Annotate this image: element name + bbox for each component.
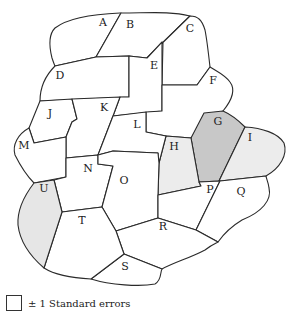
label-g: G bbox=[214, 115, 223, 128]
label-k: K bbox=[100, 101, 109, 114]
label-c: C bbox=[186, 22, 194, 35]
label-a: A bbox=[98, 16, 108, 29]
label-h: H bbox=[169, 140, 179, 153]
label-q: Q bbox=[236, 185, 245, 198]
label-i: I bbox=[248, 131, 252, 144]
label-s: S bbox=[121, 260, 129, 273]
legend: ± 1 Standard errors bbox=[6, 295, 131, 311]
label-f: F bbox=[209, 74, 217, 87]
label-t: T bbox=[78, 214, 86, 227]
label-p: P bbox=[206, 183, 214, 196]
label-e: E bbox=[150, 59, 158, 72]
legend-label: ± 1 Standard errors bbox=[28, 298, 131, 309]
label-m: M bbox=[18, 139, 29, 152]
label-l: L bbox=[133, 118, 141, 131]
label-b: B bbox=[126, 18, 134, 31]
label-n: N bbox=[83, 162, 93, 175]
label-o: O bbox=[119, 174, 128, 187]
region-map: A B C D E F G H I J K L M N O P Q R S T … bbox=[0, 0, 298, 312]
label-d: D bbox=[56, 69, 65, 82]
legend-swatch bbox=[6, 295, 22, 311]
label-u: U bbox=[39, 182, 48, 195]
label-r: R bbox=[159, 220, 168, 233]
label-j: J bbox=[47, 107, 52, 120]
